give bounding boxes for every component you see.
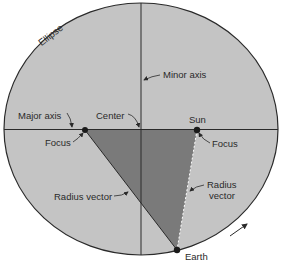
minor-axis-label: Minor axis (163, 69, 207, 80)
focus-left-label: Focus (45, 137, 71, 148)
sun-dot (194, 127, 200, 133)
radius-vector-right-label-1: Radius (207, 179, 237, 190)
radius-vector-left-label: Radius vector (54, 191, 112, 202)
earth-dot (174, 247, 180, 253)
left-focus-dot (82, 127, 88, 133)
orbit-ellipse-diagram: Ellipse Minor axis Major axis Center Sun… (0, 0, 282, 262)
radius-vector-right-label-2: vector (209, 190, 235, 201)
sun-label: Sun (189, 114, 206, 125)
focus-right-label: Focus (212, 138, 238, 149)
earth-label: Earth (185, 251, 208, 262)
major-axis-label: Major axis (18, 110, 62, 121)
orbit-direction-arrow-icon (230, 224, 247, 236)
center-label: Center (96, 110, 125, 121)
